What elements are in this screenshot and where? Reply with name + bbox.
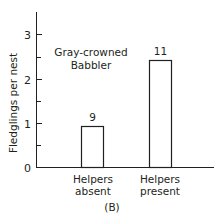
sample-size-label: 11 [154, 45, 167, 57]
chart-title-line1: Gray-crowned [54, 46, 127, 58]
panel-label: (B) [104, 201, 119, 213]
category-label: Helpers [73, 173, 113, 185]
sample-size-label: 9 [89, 111, 96, 123]
y-tick-label: 2 [24, 74, 31, 87]
category-label: absent [75, 185, 111, 197]
y-tick-label: 0 [24, 162, 31, 175]
y-tick-label: 3 [24, 29, 31, 42]
bar-chart: 3 2 1 0 Fledglings per nest Gray-crowned… [0, 0, 221, 223]
y-tick-label: 1 [24, 118, 31, 131]
bar-helpers-absent [82, 127, 104, 168]
chart-title-line2: Babbler [71, 59, 112, 71]
category-label: present [140, 185, 180, 197]
category-label: Helpers [140, 173, 180, 185]
y-axis-label: Fledglings per nest [7, 53, 19, 153]
bar-helpers-present [150, 61, 172, 168]
